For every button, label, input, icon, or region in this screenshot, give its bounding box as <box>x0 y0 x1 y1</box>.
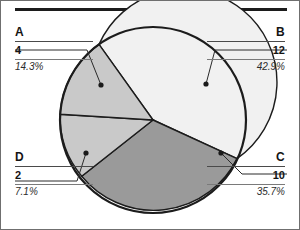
callout-d-value: 2 <box>15 166 93 182</box>
callout-b-value: 12 <box>207 41 285 57</box>
pie-chart-figure: A 4 14.3% B 12 42.9% D 2 7.1% C 10 35.7% <box>0 0 300 230</box>
callout-b-key: B <box>207 26 285 39</box>
callout-a: A 4 14.3% <box>15 26 93 73</box>
callout-c-value: 10 <box>207 166 285 182</box>
callout-a-value: 4 <box>15 41 93 57</box>
callout-d: D 2 7.1% <box>15 151 93 198</box>
callout-a-key: A <box>15 26 93 39</box>
callout-d-percent: 7.1% <box>15 184 93 198</box>
leader-dot-b <box>203 81 208 86</box>
callout-c: C 10 35.7% <box>207 151 285 198</box>
leader-dot-a <box>98 82 103 87</box>
callout-c-key: C <box>207 151 285 164</box>
callout-c-percent: 35.7% <box>207 184 285 198</box>
callout-b-percent: 42.9% <box>207 59 285 73</box>
callout-b: B 12 42.9% <box>207 26 285 73</box>
callout-a-percent: 14.3% <box>15 59 93 73</box>
callout-d-key: D <box>15 151 93 164</box>
